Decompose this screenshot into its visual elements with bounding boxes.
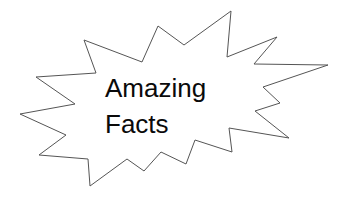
caption-line-facts: Facts (105, 106, 206, 142)
caption-line-amazing: Amazing (105, 70, 206, 106)
amazing-facts-graphic: Amazing Facts (0, 0, 341, 197)
starburst-caption: Amazing Facts (105, 70, 206, 142)
